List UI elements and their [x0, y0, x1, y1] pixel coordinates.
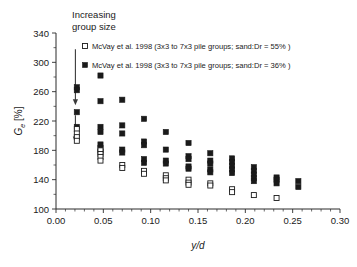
data-point [142, 171, 147, 176]
data-point [120, 123, 125, 128]
data-point [98, 129, 103, 134]
svg-text:Ge [%]: Ge [%] [13, 106, 26, 135]
x-tick-label: 0.15 [189, 215, 208, 226]
data-point [98, 73, 103, 78]
figure-container: 0.000.050.100.150.200.250.30100140180220… [0, 0, 357, 267]
annotation-line-2: group size [72, 21, 116, 32]
data-point [208, 170, 213, 175]
data-point [274, 181, 279, 186]
data-point [274, 196, 279, 201]
y-tick-label: 340 [33, 28, 49, 39]
x-tick-label: 0.25 [283, 215, 302, 226]
y-tick-label: 260 [33, 86, 49, 97]
x-tick-label: 0.10 [141, 215, 160, 226]
y-tick-label: 100 [33, 204, 49, 215]
x-tick-label: 0.30 [331, 215, 350, 226]
data-point [186, 166, 191, 171]
legend-label-1: McVay et al. 1998 (3x3 to 7x3 pile group… [92, 61, 291, 70]
data-point [208, 151, 213, 156]
x-axis-title: y/d [190, 240, 205, 251]
data-point [230, 190, 235, 195]
data-point [163, 129, 168, 134]
y-axis-title: Ge [%] [13, 106, 26, 135]
increasing-group-size-annotation: Increasing group size [72, 9, 116, 32]
data-point [98, 158, 103, 163]
data-point [208, 161, 213, 166]
data-point [120, 165, 125, 170]
legend-label-0: McVay et al. 1998 (3x3 to 7x3 pile group… [92, 42, 291, 51]
arrow-head [73, 99, 78, 105]
data-point [141, 116, 146, 121]
legend-marker-filled-square [83, 63, 88, 68]
data-point [141, 160, 146, 165]
tick-labels-group: 0.000.050.100.150.200.250.30100140180220… [33, 28, 349, 227]
annotation-line-1: Increasing [72, 9, 116, 20]
y-tick-label: 300 [33, 57, 49, 68]
data-point [251, 193, 256, 198]
data-point [296, 179, 301, 184]
data-point [120, 97, 125, 102]
x-tick-label: 0.20 [236, 215, 255, 226]
scatter-plot: 0.000.050.100.150.200.250.30100140180220… [0, 0, 357, 267]
series-filled-squares [74, 73, 301, 190]
data-point [208, 183, 213, 188]
data-point [163, 161, 168, 166]
data-point [141, 143, 146, 148]
y-tick-label: 140 [33, 174, 49, 185]
x-tick-label: 0.00 [47, 215, 66, 226]
x-tick-label: 0.05 [94, 215, 113, 226]
data-point [251, 179, 256, 184]
data-point [186, 140, 191, 145]
data-point [74, 88, 79, 93]
data-point [186, 157, 191, 162]
y-tick-label: 220 [33, 116, 49, 127]
legend: McVay et al. 1998 (3x3 to 7x3 pile group… [83, 42, 291, 70]
data-point [98, 124, 103, 129]
data-point [120, 150, 125, 155]
y-tick-label: 180 [33, 145, 49, 156]
data-point [163, 147, 168, 152]
data-point [98, 99, 103, 104]
series-open-squares [74, 127, 279, 201]
data-point [74, 138, 79, 143]
data-point [186, 182, 191, 187]
data-point [120, 131, 125, 136]
data-point [74, 110, 79, 115]
data-point [229, 170, 234, 175]
data-point [296, 184, 301, 189]
data-point [163, 178, 168, 183]
legend-marker-open-square [83, 44, 88, 49]
